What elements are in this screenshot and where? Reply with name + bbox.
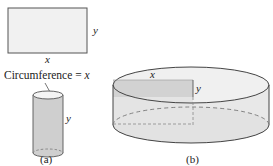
small-cylinder-body (33, 95, 63, 157)
big-cylinder-height-label: y (195, 82, 201, 94)
circumference-label: Circumference = x (4, 69, 91, 81)
caption-b: (b) (186, 153, 199, 166)
rectangle-shape (8, 8, 87, 53)
rectangle-width-label: x (44, 53, 50, 65)
rectangle-height-label: y (92, 24, 98, 36)
big-cylinder-radius-label: x (149, 68, 155, 80)
figure-a-rectangle: y x (8, 8, 98, 65)
caption-a: (a) (40, 153, 53, 166)
figure-a-cylinder: y (33, 91, 71, 157)
circumference-text: Circumference = (4, 69, 85, 81)
figure-b-cylinder: x y (113, 67, 269, 143)
diagram-canvas: y x Circumference = x y (a) (0, 0, 273, 166)
small-cylinder-top (33, 91, 63, 99)
circumference-var: x (84, 69, 91, 81)
small-cylinder-height-label: y (65, 112, 71, 124)
